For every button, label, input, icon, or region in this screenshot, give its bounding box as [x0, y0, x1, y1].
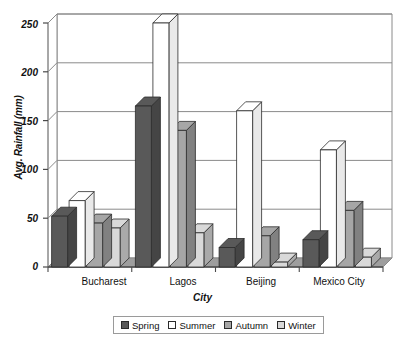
legend-item-autumn[interactable]: Autumn: [224, 320, 268, 331]
bar-beijing-spring: [219, 248, 235, 268]
bar-mexico-city-spring: [303, 240, 319, 267]
chart-legend: SpringSummerAutumnWinter: [113, 316, 324, 334]
bar-bucharest-spring: [52, 216, 68, 267]
bar-bucharest-spring-side: [68, 207, 77, 267]
legend-label-summer: Summer: [179, 320, 215, 331]
bar-beijing-summer-side: [253, 102, 262, 267]
legend-label-winter: Winter: [288, 320, 315, 331]
legend-item-summer[interactable]: Summer: [168, 320, 215, 331]
rainfall-bar-chart: Avg. Rainfall (mm) 250 200 150 100 50 0 …: [0, 0, 405, 340]
bar-lagos-summer-side: [169, 14, 178, 267]
legend-swatch-autumn: [224, 321, 232, 329]
plot-area: [0, 0, 405, 340]
legend-swatch-winter: [277, 321, 285, 329]
bar-mexico-city-summer-side: [336, 141, 345, 267]
bar-lagos-autumn-side: [186, 121, 195, 267]
legend-swatch-spring: [121, 321, 129, 329]
x-tick-label-mexico-city: Mexico City: [297, 276, 381, 287]
bar-lagos-spring: [135, 106, 151, 267]
bar-lagos-spring-side: [151, 97, 160, 267]
bar-bucharest-summer-side: [85, 192, 94, 267]
x-axis-title: City: [0, 292, 405, 303]
legend-label-autumn: Autumn: [235, 320, 268, 331]
legend-swatch-summer: [168, 321, 176, 329]
legend-label-spring: Spring: [132, 320, 159, 331]
bar-mexico-city-autumn-side: [354, 201, 363, 267]
x-tick-label-bucharest: Bucharest: [62, 276, 146, 287]
x-tick-label-beijing: Beijing: [219, 276, 303, 287]
legend-item-winter[interactable]: Winter: [277, 320, 315, 331]
x-tick-label-lagos: Lagos: [141, 276, 225, 287]
legend-item-spring[interactable]: Spring: [121, 320, 159, 331]
